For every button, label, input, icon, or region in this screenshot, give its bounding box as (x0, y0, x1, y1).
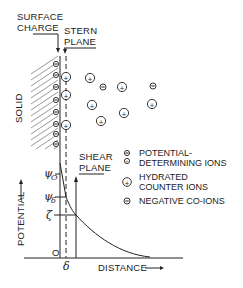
svg-text:POTENTIAL-: POTENTIAL- (139, 148, 192, 158)
svg-text:+: + (121, 110, 126, 117)
surface-charge-label: SURFACE (17, 11, 63, 22)
svg-text:+: + (63, 74, 68, 81)
legend: + POTENTIAL- DETERMINING IONS + HYDRATED… (123, 148, 227, 206)
svg-text:+: + (149, 101, 154, 108)
surface-charge-label-2: CHARGE (17, 22, 59, 33)
svg-text:HYDRATED: HYDRATED (139, 172, 188, 182)
svg-text:+: + (125, 159, 129, 164)
origin-label: O (52, 247, 60, 258)
svg-text:COUNTER IONS: COUNTER IONS (139, 182, 208, 192)
electrical-double-layer-diagram: SURFACE CHARGE STERN PLANE SOLID (0, 0, 243, 288)
shear-plane-label-2: PLANE (79, 162, 111, 173)
surface-charge-arrowhead (56, 48, 60, 53)
psi-delta-label: ψ δ (44, 190, 56, 205)
legend-item-potential-determining-ions: + POTENTIAL- DETERMINING IONS (124, 148, 226, 168)
diffuse-ions: + + + + + + (85, 73, 156, 125)
svg-text:+: + (124, 179, 129, 186)
svg-text:+: + (87, 75, 92, 82)
distance-axis-label: DISTANCE (98, 262, 147, 273)
stern-plane-label-2: PLANE (64, 36, 96, 47)
svg-text:DETERMINING IONS: DETERMINING IONS (139, 158, 227, 168)
svg-text:+: + (119, 84, 124, 91)
legend-item-negative-co-ions: NEGATIVE CO-IONS (124, 196, 225, 206)
svg-text:NEGATIVE CO-IONS: NEGATIVE CO-IONS (139, 196, 225, 206)
potential-curve (60, 163, 150, 257)
distance-axis-arrowhead (160, 266, 164, 270)
shear-plane-arrowhead (74, 176, 78, 182)
delta-label: δ (63, 260, 70, 273)
legend-item-hydrated-counter-ions: + HYDRATED COUNTER IONS (123, 172, 208, 192)
svg-text:+: + (98, 118, 103, 125)
stern-plane-arrowhead (63, 49, 67, 54)
svg-text:+: + (63, 122, 68, 129)
stern-plane-label: STERN (64, 25, 97, 36)
shear-plane-label: SHEAR (79, 151, 113, 162)
zeta-label: ζ (46, 209, 53, 222)
solid-label: SOLID (13, 93, 24, 123)
svg-text:+: + (63, 92, 68, 99)
potential-axis-arrowhead (19, 179, 23, 184)
svg-text:+: + (89, 102, 94, 109)
